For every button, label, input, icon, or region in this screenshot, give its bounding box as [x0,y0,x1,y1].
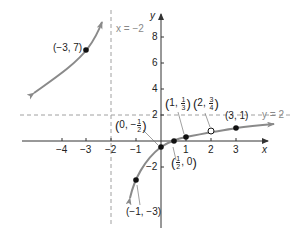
point-0-neghalf [158,144,164,150]
y-axis-label: y [150,11,155,21]
y-tick-label: 4 [152,84,158,94]
y-tick-label: 8 [152,32,158,42]
point-3-1 [233,125,239,131]
x-axis [22,138,268,141]
x-tick-label: −2 [105,145,116,155]
point-label-2-threequarters: (2, 34) [193,96,219,111]
x-tick-label: −3 [80,145,91,155]
point-neg3-7 [83,47,89,53]
rational-function-graph: x = −2 y = 2 y x −4 −3 −2 −1 1 2 3 8 6 4… [0,0,302,232]
point-neg1-neg3 [133,177,139,183]
point-half-0 [171,138,177,144]
point-label-1-third: (1, 13) [165,96,191,111]
x-axis-label: x [262,145,267,155]
point-label-half-0: (12, 0) [171,155,197,170]
point-label-neg1-neg3: (−1, −3) [126,207,161,217]
x-tick-label: 1 [183,145,189,155]
y-tick-label: −2 [146,162,157,172]
vertical-asymptote-label: x = −2 [116,24,144,34]
y-axis [161,14,164,228]
point-label-0-neghalf: ((0, −0, −12) [115,118,147,133]
x-tick-label: −1 [130,145,141,155]
x-tick-label: 3 [233,145,239,155]
horizontal-asymptote-label: y = 2 [262,110,284,120]
point-label-3-1: (3, 1) [225,111,248,121]
y-tick-label: 6 [152,58,158,68]
x-tick-label: −4 [56,145,67,155]
graph-canvas [0,0,302,232]
y-tick-label: 2 [152,110,158,120]
x-tick-label: 2 [208,145,214,155]
point-1-third [183,134,189,140]
hole-2-threequarters [208,128,214,134]
curve-left-branch [34,22,102,93]
point-label-neg3-7: (−3, 7) [53,43,82,53]
